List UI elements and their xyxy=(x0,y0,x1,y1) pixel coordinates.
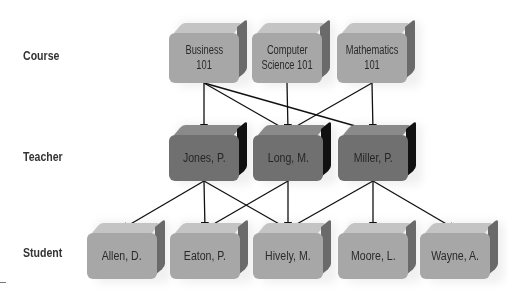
box-front-face: Moore, L. xyxy=(338,233,408,279)
box-front-face: Long, M. xyxy=(253,135,323,181)
teacher-node-long-m[interactable]: Long, M. xyxy=(253,125,323,181)
student-node-allen-d[interactable]: Allen, D. xyxy=(87,223,157,279)
node-label: Long, M. xyxy=(267,151,308,166)
node-label-line: Mathematics xyxy=(346,43,399,58)
course-node-computer-science-101[interactable]: ComputerScience 101 xyxy=(252,23,322,83)
node-label-line: 101 xyxy=(196,58,212,73)
node-label: Moore, L. xyxy=(351,249,396,264)
node-label: Miller, P. xyxy=(353,151,392,166)
student-node-moore-l[interactable]: Moore, L. xyxy=(338,223,408,279)
box-top-face xyxy=(257,23,325,33)
course-node-mathematics-101[interactable]: Mathematics101 xyxy=(337,23,407,83)
teacher-node-jones-p[interactable]: Jones, P. xyxy=(169,125,239,181)
box-front-face: Eaton, P. xyxy=(170,233,240,279)
box-top-face xyxy=(258,223,326,233)
node-label: Jones, P. xyxy=(183,151,226,166)
node-label-line: Business xyxy=(185,43,223,58)
box-front-face: Hively, M. xyxy=(253,233,323,279)
node-label: Hively, M. xyxy=(265,249,311,264)
box-top-face xyxy=(425,223,493,233)
box-top-face xyxy=(92,223,160,233)
box-front-face: Allen, D. xyxy=(87,233,157,279)
node-label-line: Computer xyxy=(267,43,308,58)
teacher-node-miller-p[interactable]: Miller, P. xyxy=(338,125,408,181)
box-front-face: Miller, P. xyxy=(338,135,408,181)
box-top-face xyxy=(174,125,242,135)
box-front-face: Mathematics101 xyxy=(337,33,407,83)
box-top-face xyxy=(342,23,410,33)
margin-tick-mark xyxy=(0,282,6,283)
box-top-face xyxy=(258,125,326,135)
box-top-face xyxy=(175,223,243,233)
node-label-line: Science 101 xyxy=(261,58,312,73)
box-front-face: Jones, P. xyxy=(169,135,239,181)
node-label-line: 101 xyxy=(364,58,380,73)
student-node-wayne-a[interactable]: Wayne, A. xyxy=(420,223,490,279)
box-top-face xyxy=(343,223,411,233)
box-front-face: Business101 xyxy=(169,33,239,83)
box-front-face: Wayne, A. xyxy=(420,233,490,279)
box-top-face xyxy=(343,125,411,135)
node-label: Allen, D. xyxy=(102,249,142,264)
node-label: Wayne, A. xyxy=(431,249,479,264)
node-label: Eaton, P. xyxy=(184,249,226,264)
course-node-business-101[interactable]: Business101 xyxy=(169,23,239,83)
box-front-face: ComputerScience 101 xyxy=(252,33,322,83)
student-node-eaton-p[interactable]: Eaton, P. xyxy=(170,223,240,279)
box-top-face xyxy=(174,23,242,33)
student-node-hively-m[interactable]: Hively, M. xyxy=(253,223,323,279)
